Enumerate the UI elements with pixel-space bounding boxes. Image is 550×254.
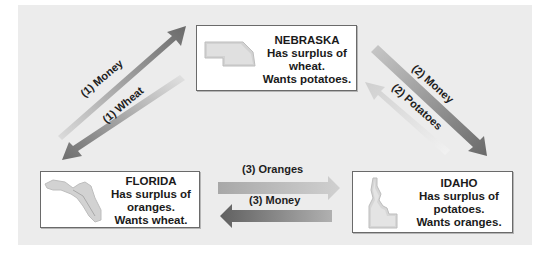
idaho-box: IDAHO Has surplus of potatoes. Wants ora… xyxy=(352,171,513,233)
florida-map-icon xyxy=(43,176,105,224)
idaho-map-icon xyxy=(365,176,399,230)
money-3-label: (3) Money xyxy=(249,194,300,206)
nebraska-map-icon xyxy=(203,38,257,72)
nebraska-box: NEBRASKA Has surplus of wheat. Wants pot… xyxy=(196,25,357,91)
florida-name: FLORIDA xyxy=(103,175,199,188)
oranges-3-label: (3) Oranges xyxy=(242,163,303,175)
florida-box: FLORIDA Has surplus of oranges. Wants wh… xyxy=(40,171,200,228)
nebraska-line3: Wants potatoes. xyxy=(257,73,357,86)
florida-line1: Has surplus of xyxy=(103,188,199,201)
money-3-arrow xyxy=(220,204,332,228)
idaho-line1: Has surplus of xyxy=(405,190,513,203)
florida-line2: oranges. xyxy=(103,201,199,214)
money-1-arrow xyxy=(58,26,186,140)
nebraska-line1: Has surplus of xyxy=(257,47,357,60)
idaho-line3: Wants oranges. xyxy=(405,216,513,229)
nebraska-line2: wheat. xyxy=(257,60,357,73)
idaho-name: IDAHO xyxy=(405,177,513,190)
nebraska-name: NEBRASKA xyxy=(257,34,357,47)
florida-line3: Wants wheat. xyxy=(103,214,199,227)
idaho-line2: potatoes. xyxy=(405,203,513,216)
